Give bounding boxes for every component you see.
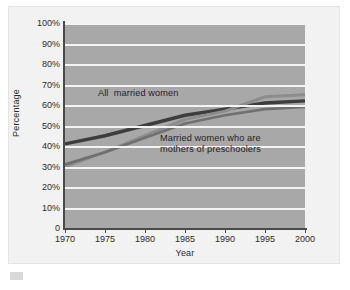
annotation-mothers-line2: mothers of preschoolers	[160, 144, 261, 154]
y-axis-line	[63, 21, 65, 230]
plot-area	[65, 23, 305, 228]
gridline-100	[65, 23, 305, 25]
gridline-80	[65, 64, 305, 66]
annotation-all-married-women: All married women	[98, 88, 178, 99]
figure: Percentage 100%90%80%70%60%50%40%30%20%1…	[0, 0, 350, 290]
x-axis-line	[63, 228, 307, 230]
gridline-90	[65, 44, 305, 46]
annotation-mothers-line1: Married women who are	[160, 133, 261, 143]
gridline-60	[65, 105, 305, 107]
gridline-50	[65, 126, 305, 128]
gridline-20	[65, 187, 305, 189]
x-axis-title: Year	[60, 248, 310, 258]
caption-marker	[10, 272, 23, 280]
gridline-10	[65, 208, 305, 210]
annotation-mothers-of-preschoolers: Married women who aremothers of preschoo…	[160, 133, 261, 155]
y-axis-title: Percentage	[11, 73, 21, 153]
gridline-30	[65, 167, 305, 169]
gridline-70	[65, 85, 305, 87]
